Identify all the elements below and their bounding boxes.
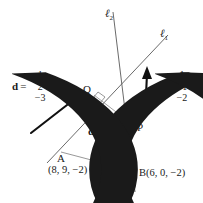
line-label-l2: ℓ2 — [105, 8, 113, 22]
cross-product-left: d — [88, 126, 94, 137]
right-paren-icon — [189, 68, 194, 105]
vector-e-equation: e = 1 −1 −2 — [155, 68, 194, 105]
point-b-label: B(6, 0, −2) — [139, 168, 185, 179]
cross-product-symbol: × — [96, 127, 101, 136]
vector-d-equation: d = 1 2 −3 — [12, 68, 52, 105]
geometry-figure: ℓ2 ℓ1 d = 1 2 −3 e — [0, 0, 203, 203]
point-a-coordinates: (8, 9, −2) — [48, 165, 87, 176]
point-label-q: Q — [83, 84, 91, 95]
right-paren-icon — [47, 68, 52, 105]
vector-e-column: 1 −1 −2 — [170, 68, 194, 105]
cross-product-label: d × e — [88, 126, 107, 137]
line-label-l1: ℓ1 — [160, 28, 168, 42]
vector-d-column: 1 2 −3 — [28, 68, 52, 105]
cross-product-right: e — [102, 126, 107, 137]
point-label-p: P — [137, 122, 143, 133]
point-label-a: A — [57, 153, 65, 164]
